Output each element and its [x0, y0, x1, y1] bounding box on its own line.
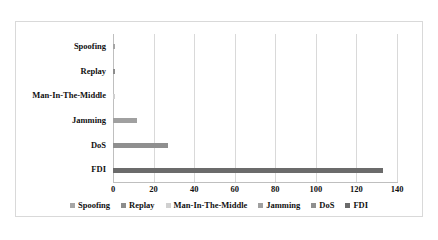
legend-item-replay[interactable]: Replay [121, 200, 155, 210]
bar-man-in-the-middle[interactable] [113, 94, 115, 99]
y-axis-label-man-in-the-middle: Man-In-The-Middle [32, 83, 106, 108]
legend-label-jamming: Jamming [266, 200, 300, 210]
x-tick-label-60: 60 [230, 184, 239, 194]
bar-jamming[interactable] [113, 118, 137, 123]
chart-legend: SpoofingReplayMan-In-The-MiddleJammingDo… [16, 200, 422, 210]
legend-swatch-icon-replay [121, 203, 126, 208]
y-axis-category-labels: SpoofingReplayMan-In-The-MiddleJammingDo… [16, 34, 110, 182]
bar-row [113, 133, 397, 158]
bar-fdi[interactable] [113, 168, 383, 173]
legend-swatch-icon-spoofing [70, 203, 75, 208]
bar-row [113, 108, 397, 133]
legend-item-jamming[interactable]: Jamming [258, 200, 300, 210]
x-tick-label-120: 120 [350, 184, 363, 194]
x-axis-tick-labels: 020406080100120140 [113, 184, 397, 198]
bar-spoofing[interactable] [113, 44, 115, 49]
legend-item-dos[interactable]: DoS [311, 200, 334, 210]
legend-swatch-icon-man-in-the-middle [166, 203, 171, 208]
legend-label-spoofing: Spoofing [78, 200, 110, 210]
legend-label-fdi: FDI [353, 200, 368, 210]
legend-item-fdi[interactable]: FDI [345, 200, 368, 210]
legend-label-man-in-the-middle: Man-In-The-Middle [174, 200, 248, 210]
bar-rows [113, 34, 397, 182]
bar-row [113, 34, 397, 59]
x-tick-label-100: 100 [309, 184, 322, 194]
x-tick-label-80: 80 [271, 184, 280, 194]
bar-row [113, 59, 397, 84]
x-tick-label-40: 40 [190, 184, 199, 194]
gridline-140 [397, 34, 398, 182]
y-axis-label-dos: DoS [91, 133, 106, 158]
x-tick-label-0: 0 [111, 184, 115, 194]
x-axis-line [113, 182, 398, 183]
x-tick-label-140: 140 [391, 184, 404, 194]
bar-row [113, 157, 397, 182]
legend-swatch-icon-jamming [258, 203, 263, 208]
legend-swatch-icon-fdi [345, 203, 350, 208]
legend-swatch-icon-dos [311, 203, 316, 208]
chart-container: SpoofingReplayMan-In-The-MiddleJammingDo… [15, 21, 423, 217]
bar-row [113, 83, 397, 108]
legend-label-replay: Replay [129, 200, 155, 210]
x-tick-label-20: 20 [149, 184, 158, 194]
bar-dos[interactable] [113, 143, 168, 148]
legend-item-spoofing[interactable]: Spoofing [70, 200, 110, 210]
legend-label-dos: DoS [319, 200, 334, 210]
y-axis-label-spoofing: Spoofing [74, 34, 106, 59]
y-axis-label-jamming: Jamming [72, 108, 106, 133]
y-axis-label-fdi: FDI [91, 157, 106, 182]
legend-item-man-in-the-middle[interactable]: Man-In-The-Middle [166, 200, 248, 210]
y-axis-label-replay: Replay [81, 59, 107, 84]
plot-area [113, 34, 397, 182]
bar-replay[interactable] [113, 69, 115, 74]
